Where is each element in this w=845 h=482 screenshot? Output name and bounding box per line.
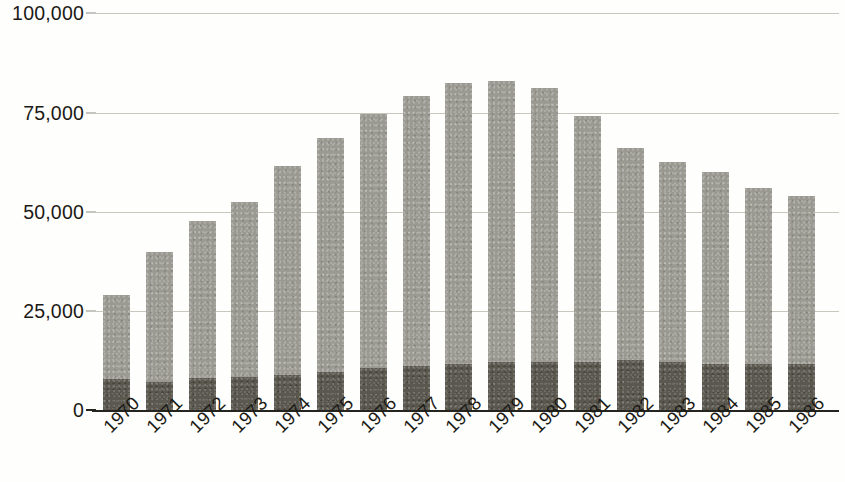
bar-segment-upper-1978 bbox=[445, 83, 472, 364]
bar-1970 bbox=[103, 295, 130, 410]
bar-segment-upper-1984 bbox=[702, 172, 729, 364]
y-tick-stub-75000 bbox=[86, 113, 96, 114]
bar-1975 bbox=[317, 138, 344, 410]
y-tick-label-50000: 50,000 bbox=[23, 201, 84, 224]
bar-1983 bbox=[659, 162, 686, 410]
bar-segment-upper-1985 bbox=[745, 188, 772, 365]
y-axis: 100,000 75,000 50,000 25,000 0 bbox=[0, 0, 96, 482]
bar-1982 bbox=[617, 148, 644, 410]
y-tick-label-0: 0 bbox=[73, 399, 84, 422]
bar-segment-upper-1979 bbox=[488, 81, 515, 363]
y-tick-label-25000: 25,000 bbox=[23, 300, 84, 323]
y-tick-stub-100000 bbox=[86, 13, 96, 14]
bar-1979 bbox=[488, 81, 515, 410]
bar-1985 bbox=[745, 188, 772, 410]
bar-1981 bbox=[574, 116, 601, 410]
bar-segment-upper-1970 bbox=[103, 295, 130, 379]
bar-segment-upper-1977 bbox=[403, 96, 430, 365]
bar-1984 bbox=[702, 172, 729, 410]
x-axis: 1970197119721973197419751976197719781979… bbox=[96, 414, 845, 482]
bar-segment-upper-1986 bbox=[788, 196, 815, 365]
bar-segment-upper-1972 bbox=[189, 221, 216, 378]
bar-1978 bbox=[445, 83, 472, 411]
bar-1972 bbox=[189, 221, 216, 410]
bar-1976 bbox=[360, 114, 387, 410]
y-tick-stub-25000 bbox=[86, 311, 96, 312]
bar-segment-upper-1976 bbox=[360, 114, 387, 368]
bar-segment-upper-1973 bbox=[231, 202, 258, 377]
bar-segment-upper-1975 bbox=[317, 138, 344, 372]
bar-segment-upper-1981 bbox=[574, 116, 601, 361]
bar-segment-upper-1982 bbox=[617, 148, 644, 360]
y-tick-label-100000: 100,000 bbox=[12, 2, 84, 25]
y-tick-stub-50000 bbox=[86, 212, 96, 213]
bar-segment-upper-1980 bbox=[531, 88, 558, 362]
bar-1980 bbox=[531, 88, 558, 410]
bar-1973 bbox=[231, 202, 258, 410]
bar-1971 bbox=[146, 252, 173, 410]
y-tick-label-75000: 75,000 bbox=[23, 102, 84, 125]
bar-1986 bbox=[788, 196, 815, 410]
bar-segment-upper-1974 bbox=[274, 166, 301, 375]
stacked-bar-chart: 100,000 75,000 50,000 25,000 0 197019711… bbox=[0, 0, 845, 482]
bar-1977 bbox=[403, 96, 430, 410]
bar-segment-upper-1983 bbox=[659, 162, 686, 362]
bar-1974 bbox=[274, 166, 301, 410]
bar-segment-upper-1971 bbox=[146, 252, 173, 382]
